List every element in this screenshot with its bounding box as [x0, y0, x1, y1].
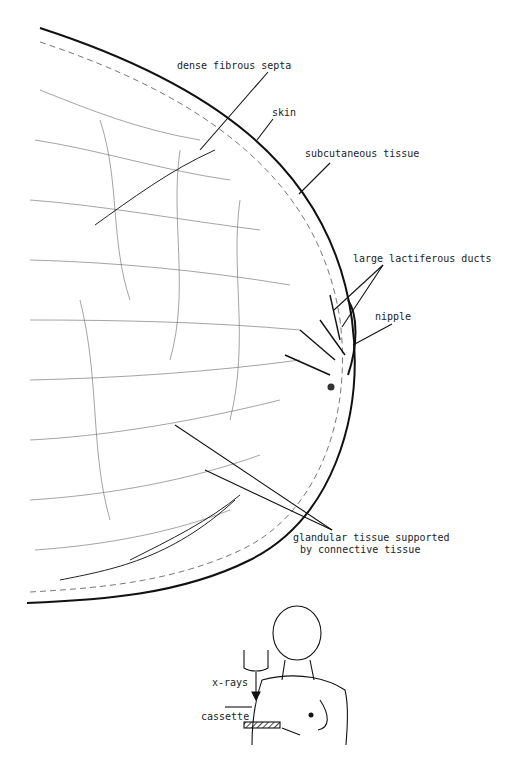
- label-nipple: nipple: [375, 311, 411, 323]
- label-xrays: x-rays: [212, 677, 248, 689]
- duct-opening: [328, 384, 335, 391]
- torso-right: [262, 676, 348, 745]
- label-glandular-tissue-line1: glandular tissue supported: [293, 532, 450, 544]
- head-outline: [273, 606, 321, 660]
- label-subcutaneous-tissue: subcutaneous tissue: [305, 148, 419, 160]
- xray-tube: [244, 650, 268, 671]
- breast-anatomy-diagram: dense fibrous septa skin subcutaneous ti…: [0, 0, 506, 761]
- positioning-inset: [225, 606, 348, 745]
- lactiferous-ducts: [285, 295, 345, 375]
- xray-arrow: [252, 692, 260, 700]
- anatomy-line-art: [0, 0, 506, 761]
- cassette-plate: [244, 722, 280, 728]
- label-large-lactiferous-ducts: large lactiferous ducts: [353, 253, 491, 265]
- subcutaneous-outline: [30, 42, 342, 592]
- torso-left: [252, 680, 262, 745]
- label-cassette: cassette: [201, 711, 249, 723]
- label-skin: skin: [272, 107, 296, 119]
- label-glandular-tissue-line2: by connective tissue: [300, 544, 420, 556]
- skin-outline: [27, 28, 355, 603]
- leader-lines: [175, 72, 392, 530]
- label-dense-fibrous-septa: dense fibrous septa: [177, 60, 291, 72]
- breast-outline-inset: [318, 700, 327, 730]
